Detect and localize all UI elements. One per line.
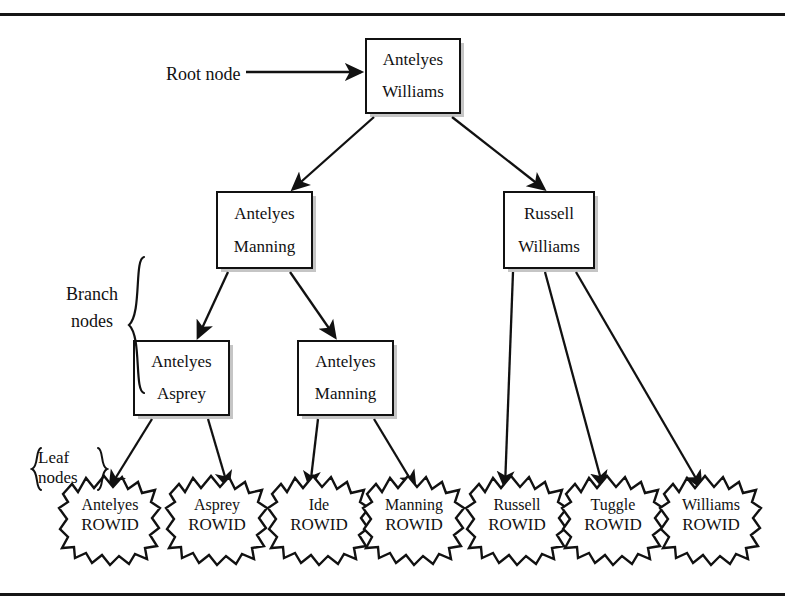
branch-nodes-label-line-1: Branch <box>51 281 133 308</box>
arrow-root-to-branch-left <box>293 117 374 189</box>
leaf-rowid: ROWID <box>561 515 665 535</box>
branch-upper-right-key-2: Williams <box>518 238 580 256</box>
branch-nodes-label: Branch nodes <box>51 281 133 335</box>
arrow-root-to-branch-right <box>452 117 544 189</box>
root-node-label: Root node <box>166 64 241 85</box>
leaf-text: Williams ROWID <box>659 496 763 535</box>
leaf-node: Manning ROWID <box>362 474 466 566</box>
leaf-rowid: ROWID <box>362 515 466 535</box>
leaf-text: Tuggle ROWID <box>561 496 665 535</box>
leaf-name: Asprey <box>165 496 269 515</box>
branch-node-lower-right: Antelyes Manning <box>297 340 394 416</box>
leaf-node: Asprey ROWID <box>165 474 269 566</box>
arrow-branch-right-to-leaf-4 <box>505 272 513 487</box>
leaf-nodes-brace-right <box>95 446 109 492</box>
leaf-name: Williams <box>659 496 763 515</box>
arrow-branch-left-to-child-1 <box>290 272 335 337</box>
leaf-node: Williams ROWID <box>659 474 763 566</box>
branch-lower-right-key-1: Antelyes <box>315 353 375 371</box>
leaf-node: Ide ROWID <box>267 474 371 566</box>
leaf-rowid: ROWID <box>165 515 269 535</box>
branch-lower-right-key-2: Manning <box>315 385 376 403</box>
leaf-nodes-label: Leaf nodes <box>38 448 102 488</box>
branch-nodes-brace <box>126 255 150 395</box>
leaf-name: Manning <box>362 496 466 515</box>
leaf-nodes-brace-left <box>30 446 44 492</box>
leaf-text: Ide ROWID <box>267 496 371 535</box>
leaf-nodes-label-line-1: Leaf <box>38 448 102 468</box>
branch-node-upper-left: Antelyes Manning <box>216 191 313 269</box>
branch-upper-left-key-2: Manning <box>234 238 295 256</box>
leaf-rowid: ROWID <box>58 515 162 535</box>
root-key-2: Williams <box>382 83 444 101</box>
branch-lower-left-key-2: Asprey <box>157 385 206 403</box>
leaf-nodes-label-line-2: nodes <box>38 468 102 488</box>
branch-node-upper-right: Russell Williams <box>503 191 595 269</box>
root-key-1: Antelyes <box>383 51 443 69</box>
branch-upper-left-key-1: Antelyes <box>234 205 294 223</box>
leaf-rowid: ROWID <box>267 515 371 535</box>
leaf-rowid: ROWID <box>465 515 569 535</box>
branch-nodes-label-line-2: nodes <box>51 308 133 335</box>
leaf-text: Russell ROWID <box>465 496 569 535</box>
leaf-rowid: ROWID <box>659 515 763 535</box>
branch-upper-right-key-1: Russell <box>524 205 574 223</box>
branch-lower-left-key-1: Antelyes <box>151 353 211 371</box>
leaf-name: Ide <box>267 496 371 515</box>
leaf-text: Manning ROWID <box>362 496 466 535</box>
leaf-name: Antelyes <box>58 496 162 515</box>
btree-index-figure: Antelyes Williams Antelyes Manning Russe… <box>0 0 785 612</box>
leaf-name: Russell <box>465 496 569 515</box>
arrow-branch-left-to-child-0 <box>198 272 228 337</box>
leaf-node: Russell ROWID <box>465 474 569 566</box>
leaf-text: Asprey ROWID <box>165 496 269 535</box>
leaf-text: Antelyes ROWID <box>58 496 162 535</box>
root-node: Antelyes Williams <box>365 38 461 114</box>
leaf-name: Tuggle <box>561 496 665 515</box>
leaf-node: Tuggle ROWID <box>561 474 665 566</box>
